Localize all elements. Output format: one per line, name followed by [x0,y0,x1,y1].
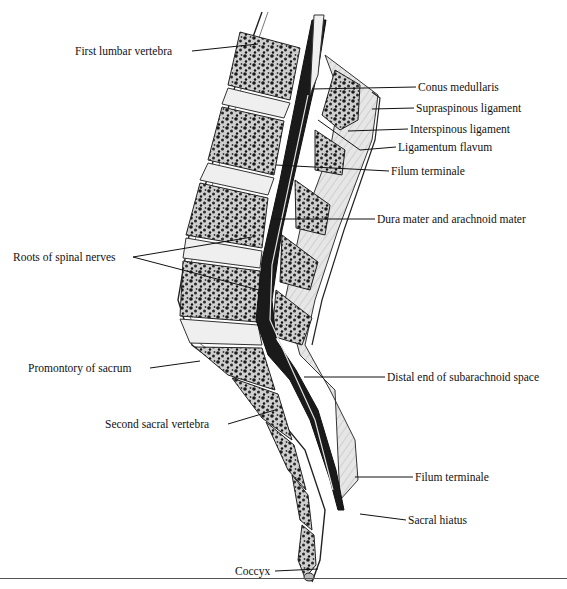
label-coccyx: Coccyx [235,565,270,578]
sacral-vertebra [232,378,292,440]
label-roots-of-spinal-nerves: Roots of spinal nerves [13,251,116,264]
label-sacral-hiatus: Sacral hiatus [408,514,467,527]
label-supraspinous-ligament: Supraspinous ligament [416,102,521,115]
label-first-lumbar-vertebra: First lumbar vertebra [75,45,172,58]
label-ligamentum-flavum: Ligamentum flavum [398,141,492,154]
label-interspinous-ligament: Interspinous ligament [410,123,510,136]
label-filum-terminale-upper: Filum terminale [391,165,465,178]
label-filum-terminale-lower: Filum terminale [415,471,489,484]
vertebral-body [228,32,300,100]
label-second-sacral-vertebra: Second sacral vertebra [105,418,209,431]
label-distal-end-subarachnoid-space: Distal end of subarachnoid space [387,371,539,384]
bottom-rule [0,578,567,579]
anatomy-figure: First lumbar vertebra Roots of spinal ne… [0,0,567,589]
label-dura-and-arachnoid-mater: Dura mater and arachnoid mater [377,213,526,226]
intervertebral-disc [180,319,262,345]
vertebral-body [180,261,260,322]
label-promontory-of-sacrum: Promontory of sacrum [28,362,131,375]
sacral-vertebra [195,347,275,390]
label-conus-medullaris: Conus medullaris [418,81,499,94]
